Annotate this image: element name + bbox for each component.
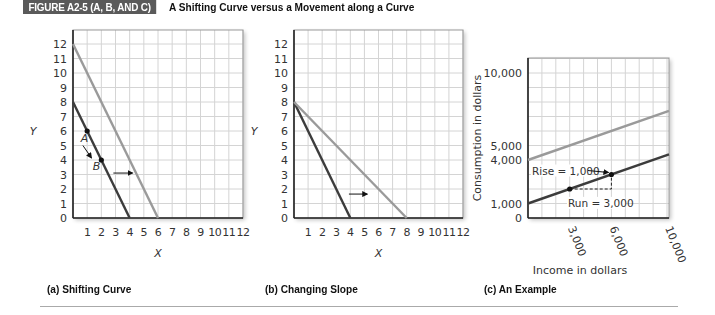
panel-a-chart: 0123456789101112123456789101112XYAB: [30, 30, 250, 260]
x-axis-label: Income in dollars: [533, 264, 628, 277]
x-tick-label: 3,000: [565, 224, 589, 258]
data-point: [567, 186, 572, 191]
y-tick-label: 9: [281, 82, 288, 95]
y-tick-label: 6: [281, 125, 288, 138]
x-tick-label: 5: [141, 226, 148, 239]
y-tick-label: 6: [60, 125, 67, 138]
x-tick-label: 9: [418, 226, 425, 239]
y-tick-label: 11: [53, 53, 67, 66]
x-axis-label: X: [153, 247, 162, 260]
x-tick-label: 6: [375, 226, 382, 239]
x-tick-label: 4: [347, 226, 354, 239]
x-tick-label: 2: [98, 226, 105, 239]
y-tick-label: 10,000: [484, 67, 523, 80]
run-label: Run = 3,000: [568, 197, 634, 209]
y-tick-label: 5: [281, 140, 288, 153]
bottom-rule: [40, 306, 678, 307]
y-tick-label: 4,000: [491, 154, 523, 167]
y-axis-label: Y: [30, 125, 38, 138]
x-tick-label: 2: [319, 226, 326, 239]
x-tick-label: 1: [84, 226, 91, 239]
x-tick-label: 7: [389, 226, 396, 239]
y-tick-label: 0: [515, 212, 522, 225]
x-tick-label: 8: [183, 226, 190, 239]
plot-area: [528, 58, 669, 218]
y-tick-label: 10: [53, 67, 67, 80]
x-tick-label: 6: [155, 226, 162, 239]
y-tick-label: 8: [281, 96, 288, 109]
y-tick-label: 4: [281, 154, 288, 167]
y-tick-label: 1,000: [491, 198, 523, 211]
y-tick-label: 5,000: [491, 140, 523, 153]
y-tick-label: 12: [53, 38, 67, 51]
y-tick-label: 8: [60, 96, 67, 109]
point-label-a: A: [80, 132, 89, 145]
y-tick-label: 4: [60, 154, 67, 167]
x-tick-label: 9: [197, 226, 204, 239]
y-tick-label: 11: [274, 53, 288, 66]
x-tick-label: 8: [403, 226, 410, 239]
y-tick-label: 2: [281, 183, 288, 196]
y-tick-label: 0: [60, 212, 67, 225]
caption-a: (a) Shifting Curve: [47, 283, 131, 295]
y-axis-label: Consumption in dollars: [471, 74, 484, 201]
panel-b-chart: 0123456789101112123456789101112XY: [251, 30, 470, 260]
y-tick-label: 3: [281, 169, 288, 182]
caption-b: (b) Changing Slope: [265, 283, 358, 295]
point-label-b: B: [93, 160, 101, 173]
y-tick-label: 1: [281, 198, 288, 211]
x-tick-label: 1: [305, 226, 312, 239]
figure-canvas: 0123456789101112123456789101112XYAB 0123…: [0, 0, 715, 315]
y-tick-label: 10: [274, 67, 288, 80]
x-tick-label: 11: [222, 226, 235, 239]
data-point: [609, 172, 614, 177]
y-tick-label: 12: [274, 38, 288, 51]
y-tick-label: 2: [60, 183, 67, 196]
x-tick-label: 3: [333, 226, 340, 239]
x-tick-label: 10,000: [662, 224, 688, 265]
x-tick-label: 7: [169, 226, 176, 239]
y-tick-label: 3: [60, 169, 67, 182]
x-tick-label: 3: [112, 226, 119, 239]
y-tick-label: 5: [60, 140, 67, 153]
x-tick-label: 6,000: [607, 224, 631, 258]
caption-c: (c) An Example: [484, 283, 557, 295]
panel-c-chart: 01,0004,0005,00010,0003,0006,00010,000In…: [471, 58, 689, 277]
x-tick-label: 10: [428, 226, 441, 239]
x-tick-label: 10: [208, 226, 221, 239]
y-tick-label: 7: [60, 111, 67, 124]
y-axis-label: Y: [251, 125, 259, 138]
x-axis-label: X: [374, 247, 383, 260]
y-tick-label: 9: [60, 82, 67, 95]
x-tick-label: 4: [126, 226, 133, 239]
y-tick-label: 1: [60, 198, 67, 211]
x-tick-label: 11: [442, 226, 455, 239]
x-tick-label: 5: [361, 226, 368, 239]
x-tick-label: 12: [237, 226, 250, 239]
x-tick-label: 12: [457, 226, 470, 239]
y-tick-label: 0: [281, 212, 288, 225]
y-tick-label: 7: [281, 111, 288, 124]
